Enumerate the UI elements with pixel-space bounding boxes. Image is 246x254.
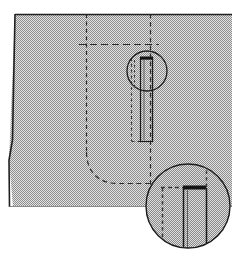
detail-circle-magnified [146,164,230,250]
pattern-diagram-svg [0,0,246,254]
magnified-welt-bar [183,186,206,190]
welt-top-bar [140,57,153,60]
diagram-canvas [0,0,246,254]
